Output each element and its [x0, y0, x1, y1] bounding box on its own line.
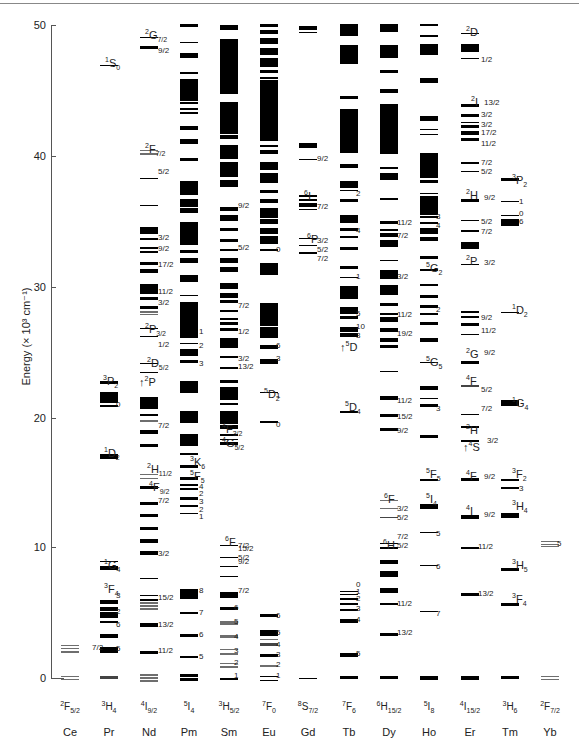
level-label-eu: 5: [276, 629, 280, 637]
level-label-tb: 10: [356, 323, 365, 331]
energy-level-dy: [380, 303, 398, 306]
level-label-er: 11/2: [481, 327, 496, 335]
energy-level-dy: [380, 198, 398, 200]
level-label-sm: 9/2: [238, 202, 249, 210]
energy-level-pr: [100, 676, 118, 679]
term-symbol-label: 5F5: [426, 465, 441, 484]
level-label-er: 17/2: [481, 129, 497, 137]
energy-level-gd: [299, 678, 317, 679]
energy-level-tm: [501, 487, 519, 489]
level-label-sm: 5: [234, 618, 238, 626]
energy-level-eu: [260, 30, 278, 34]
energy-level-pm: [180, 302, 198, 332]
energy-level-sm: [220, 135, 238, 139]
level-label-sm: 5/2: [238, 244, 249, 252]
energy-level-sm: [220, 328, 238, 331]
energy-level-gd: [299, 209, 317, 210]
level-label-dy: 7/2: [397, 533, 408, 541]
energy-level-pm: [180, 674, 198, 677]
y-tick-label: 30: [6, 282, 46, 293]
energy-level-pm: [180, 343, 198, 344]
term-symbol-label: 2I: [471, 93, 478, 108]
element-label-yb: Yb: [530, 726, 570, 738]
energy-level-dy: [380, 371, 398, 372]
level-label-ho: 6: [436, 563, 440, 571]
energy-level-dy: [380, 260, 398, 261]
level-label-pr: 5: [116, 645, 120, 653]
term-symbol-label: 1G4: [104, 556, 120, 575]
level-label-sm: 4: [234, 633, 238, 641]
term-symbol-label: ↑4S: [463, 438, 480, 453]
energy-level-nd: [140, 284, 158, 294]
element-label-sm: Sm: [209, 726, 249, 738]
energy-level-dy: [380, 45, 398, 58]
level-label-nd: 9/2: [158, 245, 169, 253]
y-tick-label: 20: [6, 413, 46, 424]
level-label-eu: 2: [276, 661, 280, 669]
energy-level-dy: [380, 167, 398, 169]
energy-level-eu: [260, 199, 278, 203]
level-label-sm: 2: [234, 659, 238, 667]
term-symbol-label: 5G5: [426, 353, 442, 372]
ground-state-label-ho: 5I8: [409, 700, 449, 714]
energy-level-dy: [380, 676, 398, 679]
energy-level-pm: [180, 612, 198, 614]
level-label-er: 9/2: [484, 511, 495, 519]
level-label-nd: 11/2: [158, 288, 173, 296]
level-label-tb: 1: [356, 588, 360, 596]
energy-level-er: [461, 323, 479, 326]
energy-level-sm: [220, 387, 238, 399]
term-symbol-label: 6I: [304, 187, 311, 202]
energy-level-nd: [140, 677, 158, 679]
level-label-er: 7/2: [481, 228, 492, 236]
energy-level-sm: [220, 267, 238, 272]
energy-level-tb: [340, 247, 358, 250]
energy-level-pm: [180, 336, 198, 338]
level-label-dy: 9/2: [397, 427, 408, 435]
energy-level-pm: [180, 181, 198, 192]
energy-level-nd: [140, 178, 158, 179]
level-label-sm: 1/2: [238, 328, 249, 336]
energy-level-ho: [420, 338, 438, 342]
term-symbol-label: ↑2P: [139, 373, 156, 388]
energy-level-eu: [260, 48, 278, 55]
element-label-pm: Pm: [169, 726, 209, 738]
energy-level-nd: [140, 514, 158, 517]
energy-level-pm: [180, 112, 198, 114]
energy-level-pm: [180, 53, 198, 58]
level-label-nd: 13/2: [158, 621, 174, 629]
energy-level-ce: [61, 648, 79, 649]
level-label-nd: 9/2: [158, 47, 169, 55]
energy-level-er: [461, 125, 479, 128]
term-symbol-label: 2D: [466, 23, 478, 38]
energy-level-eu: [260, 38, 278, 44]
ground-state-label-yb: 2F7/2: [530, 700, 570, 714]
level-label-er: 9/2: [484, 349, 495, 357]
level-label-pr: 0: [116, 401, 120, 409]
energy-level-tm: [501, 201, 519, 202]
term-symbol-label: 2G7/2: [145, 26, 167, 45]
term-symbol-label: 4F9/2: [149, 478, 169, 497]
energy-level-sm: [220, 86, 238, 94]
level-label-eu: 6: [276, 342, 280, 350]
energy-level-ho: [420, 153, 438, 178]
energy-level-tb: [340, 676, 358, 679]
level-label-er: 9/2: [484, 194, 495, 202]
energy-level-sm: [220, 557, 238, 558]
level-label-nd: 17/2: [158, 261, 174, 269]
energy-level-ho: [420, 398, 438, 399]
energy-level-ho: [420, 193, 438, 194]
level-label-dy: 7/2: [397, 232, 408, 240]
level-label-dy: 19/2: [397, 330, 413, 338]
energy-level-sm: [220, 322, 238, 325]
energy-level-er: [461, 171, 479, 172]
energy-level-eu: [260, 219, 278, 224]
term-symbol-label: 3P2: [512, 171, 527, 190]
energy-level-dy: [380, 571, 398, 577]
energy-level-dy: [380, 508, 398, 509]
term-symbol-label: 3H4: [512, 497, 528, 516]
energy-level-er: [461, 58, 479, 59]
energy-level-ce: [61, 679, 79, 680]
energy-level-tb: [340, 215, 358, 223]
energy-level-dy: [380, 24, 398, 32]
